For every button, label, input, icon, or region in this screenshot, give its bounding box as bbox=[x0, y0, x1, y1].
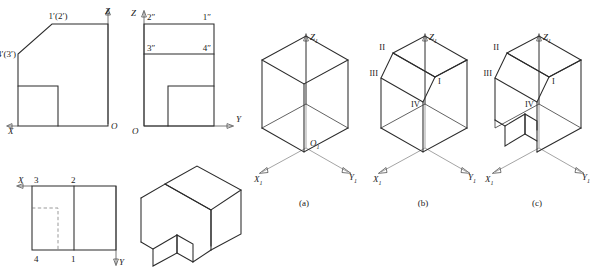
step-b-z-label: Z1 bbox=[429, 32, 437, 44]
front-view-x-label: X bbox=[7, 126, 14, 136]
front-view-point-43: 4′(3′) bbox=[0, 49, 16, 59]
isometric-step-a: Z1 X1 Y1 O1 (a) bbox=[248, 6, 373, 221]
step-c-z-label: Z1 bbox=[543, 32, 551, 44]
step-b-right-slope-edge bbox=[435, 60, 467, 77]
step-b-vertex-iii: III bbox=[370, 68, 379, 78]
step-b-vertex-i: I bbox=[438, 76, 441, 86]
step-c-vertex-iv: IV bbox=[525, 99, 535, 109]
solid-notch-edge-left bbox=[153, 235, 177, 249]
step-c-bottom-right bbox=[537, 128, 581, 152]
step-b-x-axis bbox=[381, 148, 425, 172]
step-b-vertex-ii: II bbox=[379, 42, 385, 52]
side-view-notch bbox=[168, 86, 214, 126]
solid-top-slope-face bbox=[165, 166, 241, 210]
solid-notch-edge-right bbox=[177, 253, 193, 262]
solid-front-upper bbox=[141, 184, 211, 246]
step-c-top-face bbox=[507, 36, 581, 77]
side-view: Z Y O 2″ 1″ 3″ 4″ bbox=[128, 2, 253, 147]
step-b-chamfer-face bbox=[381, 53, 435, 102]
step-c-right-slope-edge bbox=[549, 60, 581, 77]
step-b-x-label: X1 bbox=[372, 174, 382, 186]
isometric-step-c: Z1 X1 Y1 I II III IV (c) bbox=[481, 6, 601, 221]
side-view-point-1: 1″ bbox=[203, 12, 212, 22]
step-c-y-axis bbox=[539, 148, 581, 172]
step-a-y-label: Y1 bbox=[349, 172, 357, 184]
top-view-hidden-lines bbox=[32, 208, 58, 250]
step-a-bottom-back bbox=[262, 104, 348, 128]
step-a-origin-label: O1 bbox=[310, 138, 320, 150]
solid-right-face bbox=[211, 190, 241, 250]
caption-c: (c) bbox=[532, 198, 542, 208]
front-view-origin-label: O bbox=[111, 121, 118, 131]
step-c-x-arrow bbox=[492, 168, 501, 174]
front-view-notch bbox=[18, 86, 58, 126]
side-view-point-2: 2″ bbox=[147, 12, 156, 22]
side-view-origin-label: O bbox=[132, 126, 139, 136]
step-a-y-axis bbox=[306, 148, 348, 172]
top-view-x-label: X bbox=[17, 175, 24, 185]
step-c-notch-edge-left bbox=[505, 114, 525, 126]
step-a-x-axis bbox=[262, 148, 306, 172]
side-view-y-label: Y bbox=[236, 114, 242, 124]
solid-bottom-notch-outline bbox=[141, 235, 211, 266]
step-c-x-axis bbox=[495, 148, 539, 172]
side-view-point-4: 4″ bbox=[203, 43, 212, 53]
top-view-point-2: 2 bbox=[71, 175, 76, 185]
finished-solid-isometric bbox=[135, 138, 260, 278]
top-view-point-1: 1 bbox=[71, 254, 76, 264]
side-view-z-label: Z bbox=[131, 8, 137, 18]
front-view-outline bbox=[18, 24, 108, 126]
step-c-vertex-iii: III bbox=[484, 68, 493, 78]
figure-canvas: Z X O 1′(2′) 4′(3′) Z Y O 2″ 1″ 3″ 4″ X … bbox=[0, 0, 601, 278]
step-c-vertex-ii: II bbox=[493, 42, 499, 52]
front-view-point-12: 1′(2′) bbox=[49, 11, 68, 21]
step-c-notch-edge-right bbox=[525, 134, 537, 141]
step-c-vertex-i: I bbox=[552, 76, 555, 86]
caption-b: (b) bbox=[418, 198, 429, 208]
top-view-y-label: Y bbox=[119, 257, 125, 267]
top-view-point-3: 3 bbox=[34, 175, 39, 185]
side-view-point-3: 3″ bbox=[147, 43, 156, 53]
caption-a: (a) bbox=[299, 198, 309, 208]
step-c-y-label: Y1 bbox=[582, 172, 590, 184]
step-b-vertex-iv: IV bbox=[411, 99, 421, 109]
step-b-top-face bbox=[393, 36, 467, 77]
top-view: X Y 3 2 4 1 bbox=[6, 172, 141, 278]
step-c-chamfer-face bbox=[495, 53, 549, 102]
step-b-y-label: Y1 bbox=[468, 172, 476, 184]
step-a-x-arrow bbox=[259, 168, 268, 174]
step-b-y-axis bbox=[425, 148, 467, 172]
step-a-z-label: Z1 bbox=[310, 32, 318, 44]
isometric-step-b: Z1 X1 Y1 I II III IV (b) bbox=[367, 6, 492, 221]
side-view-outline bbox=[144, 24, 214, 126]
top-view-point-4: 4 bbox=[34, 254, 39, 264]
step-a-x-label: X1 bbox=[253, 174, 263, 186]
step-b-x-arrow bbox=[378, 168, 387, 174]
step-c-x-label: X1 bbox=[484, 174, 494, 186]
step-a-top-face bbox=[262, 36, 348, 84]
front-view: Z X O 1′(2′) 4′(3′) bbox=[0, 2, 140, 147]
step-b-bottom-back bbox=[381, 104, 467, 128]
